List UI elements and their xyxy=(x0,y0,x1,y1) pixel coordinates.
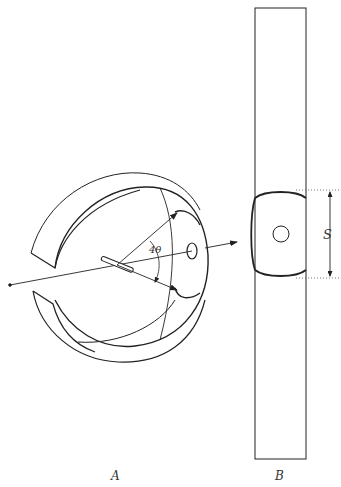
film-band-cut-upper xyxy=(31,190,140,268)
panel-b-label: B xyxy=(275,469,284,483)
incident-beam xyxy=(10,251,192,285)
sphere-meridian xyxy=(160,188,172,340)
diffracted-ray-upper xyxy=(117,213,177,265)
film-band-cut-lower xyxy=(33,291,95,352)
diffraction-arc-upper xyxy=(255,192,306,198)
beam-hole xyxy=(273,226,289,242)
film-band-inner-lower xyxy=(78,300,175,342)
film-band-outer-upper xyxy=(31,173,200,253)
distance-s-label: S xyxy=(323,227,332,242)
arc-side-left xyxy=(251,198,255,270)
panel-a xyxy=(9,173,237,362)
panel-a-label: A xyxy=(111,469,120,483)
diffracted-ray-lower xyxy=(117,265,177,290)
diffraction-diagram xyxy=(0,0,341,487)
film-band-outer-lower xyxy=(33,291,205,362)
diffraction-arc-lower xyxy=(255,270,306,276)
cone-cap-lower xyxy=(175,288,200,298)
beam-source-dot xyxy=(9,284,12,287)
angle-label: 4θ xyxy=(149,244,161,255)
film-strip xyxy=(255,8,306,459)
transmitted-beam xyxy=(205,242,237,248)
